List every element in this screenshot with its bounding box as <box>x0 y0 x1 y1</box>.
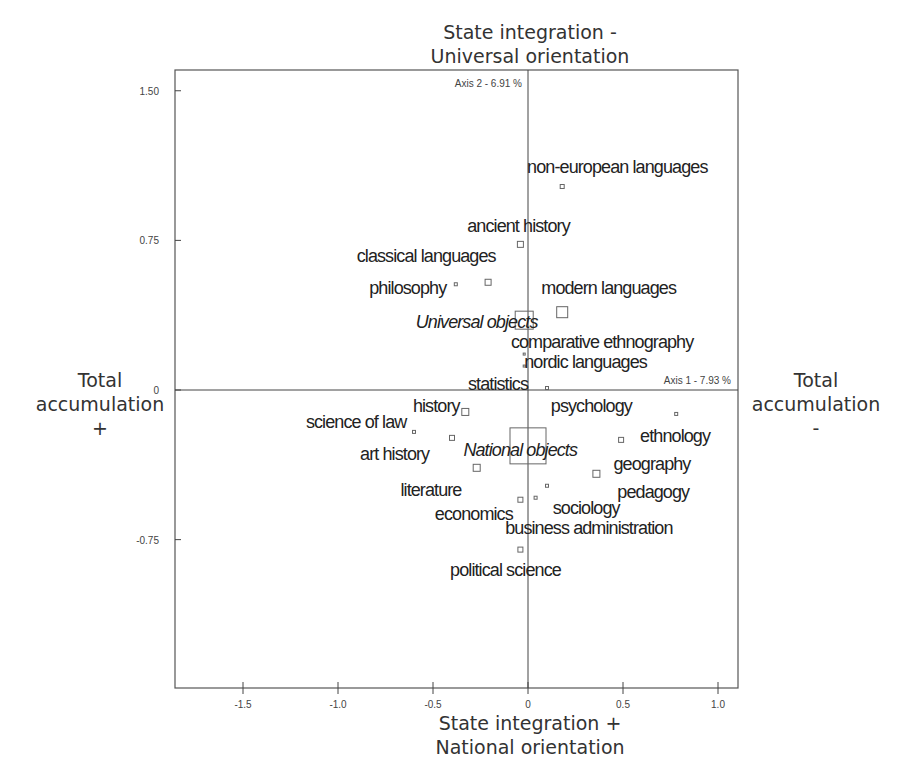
data-point: Universal objects <box>416 311 539 332</box>
pole-top: State integration - Universal orientatio… <box>360 20 700 68</box>
data-point: literature <box>400 464 480 499</box>
data-points: non-european languagesancient historycla… <box>306 157 711 580</box>
point-marker <box>454 283 457 286</box>
point-marker <box>413 430 416 433</box>
axis-2-caption: Axis 2 - 6.91 % <box>455 78 522 89</box>
data-point: science of law <box>306 412 416 433</box>
pole-bottom-line-1: State integration + <box>360 711 700 735</box>
point-label: psychology <box>551 396 633 416</box>
point-marker <box>462 408 469 415</box>
point-marker <box>557 307 568 318</box>
data-point: art history <box>360 435 454 463</box>
point-label: political science <box>450 560 562 580</box>
y-axis-ticks: 1.500.750-0.75 <box>136 86 181 546</box>
pole-left-line-3: + <box>20 416 180 440</box>
pole-right-line-1: Total <box>736 368 896 392</box>
pole-right-line-2: accumulation <box>736 392 896 416</box>
data-point: statistics <box>468 374 549 394</box>
point-label: geography <box>614 454 692 474</box>
data-point: National objects <box>463 428 578 464</box>
pole-top-line-1: State integration - <box>360 20 700 44</box>
x-axis-ticks: -1.5-1.0-0.500.51.0 <box>234 682 725 710</box>
point-label: business administration <box>505 518 672 538</box>
x-tick-label: 1.0 <box>711 699 725 710</box>
point-label: philosophy <box>369 278 447 298</box>
data-point: ethnology <box>619 426 711 446</box>
y-tick-label: 0.75 <box>140 235 160 246</box>
point-marker <box>675 412 678 415</box>
point-label: non-european languages <box>527 157 708 177</box>
data-point: philosophy <box>369 278 457 298</box>
point-marker <box>473 464 480 471</box>
point-label: classical languages <box>357 246 497 266</box>
point-marker <box>546 387 549 390</box>
data-point: psychology <box>551 396 678 416</box>
point-marker <box>517 241 523 247</box>
y-tick-label: -0.75 <box>136 535 159 546</box>
point-label: economics <box>435 504 514 524</box>
data-point: non-european languages <box>527 157 708 189</box>
point-label: Universal objects <box>416 312 539 332</box>
point-marker <box>534 496 537 499</box>
pole-left-line-2: accumulation <box>20 392 180 416</box>
data-point: political science <box>450 547 562 579</box>
data-point: business administration <box>505 518 672 538</box>
point-label: science of law <box>306 412 408 432</box>
point-marker <box>593 470 600 477</box>
point-label: comparative ethnography <box>511 332 694 352</box>
pole-top-line-2: Universal orientation <box>360 44 700 68</box>
point-label: modern languages <box>541 278 677 298</box>
point-marker <box>450 435 455 440</box>
point-label: ethnology <box>640 426 711 446</box>
point-label: National objects <box>463 440 578 460</box>
pole-left: Total accumulation + <box>20 368 180 440</box>
pole-right-line-3: - <box>736 416 896 440</box>
pole-bottom-line-2: National orientation <box>360 735 700 759</box>
point-label: nordic languages <box>524 352 648 372</box>
data-point: ancient history <box>467 216 570 247</box>
pole-left-line-1: Total <box>20 368 180 392</box>
x-tick-label: -1.0 <box>329 699 347 710</box>
point-label: history <box>413 396 461 416</box>
x-tick-label: -0.5 <box>424 699 442 710</box>
point-marker <box>518 497 523 502</box>
point-label: art history <box>360 444 430 464</box>
y-tick-label: 1.50 <box>140 86 160 97</box>
pole-right: Total accumulation - <box>736 368 896 440</box>
x-tick-label: 0.5 <box>616 699 630 710</box>
data-point: sociology <box>534 496 620 517</box>
point-marker <box>546 484 549 487</box>
data-point: history <box>413 396 469 416</box>
data-point: geography <box>593 454 691 477</box>
point-label: literature <box>400 480 462 500</box>
axis-1-caption: Axis 1 - 7.93 % <box>664 375 731 386</box>
point-marker <box>619 437 624 442</box>
point-label: pedagogy <box>617 482 690 502</box>
data-point: nordic languages <box>523 352 648 372</box>
point-label: ancient history <box>467 216 570 236</box>
point-marker <box>485 279 491 285</box>
point-marker <box>560 185 564 189</box>
point-label: sociology <box>553 498 621 518</box>
point-label: statistics <box>468 374 529 394</box>
x-tick-label: 0 <box>525 699 531 710</box>
x-tick-label: -1.5 <box>234 699 252 710</box>
point-marker <box>518 547 523 552</box>
data-point: modern languages <box>541 278 677 317</box>
pole-bottom: State integration + National orientation <box>360 711 700 759</box>
